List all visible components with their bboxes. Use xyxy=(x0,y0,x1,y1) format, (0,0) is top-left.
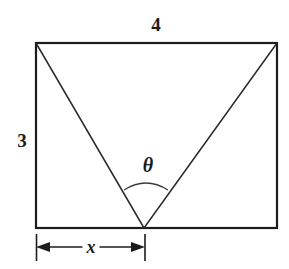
arrowhead-right-icon xyxy=(131,242,145,252)
left-diagonal-line xyxy=(36,43,144,228)
geometry-figure: 4 3 θ x xyxy=(0,0,289,269)
angle-theta-label: θ xyxy=(143,155,153,175)
right-diagonal-line xyxy=(144,43,277,228)
figure-canvas xyxy=(0,0,289,269)
base-segment-label: x xyxy=(83,238,100,256)
rectangle-outline xyxy=(36,43,277,228)
arrowhead-left-icon xyxy=(36,242,50,252)
angle-arc xyxy=(124,183,168,190)
left-height-label: 3 xyxy=(17,131,27,150)
top-width-label: 4 xyxy=(151,15,161,34)
